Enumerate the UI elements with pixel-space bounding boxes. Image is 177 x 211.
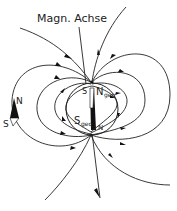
compass-north-label: N — [16, 96, 23, 106]
axis-label: Magn. Achse — [37, 12, 107, 25]
magnetic-field-diagram: Magn. Achse S N geo S geo N — [0, 0, 177, 211]
bar-magnet-south-half — [90, 88, 94, 108]
compass-south-label: S — [3, 119, 9, 129]
compass-south-tip — [10, 118, 19, 126]
